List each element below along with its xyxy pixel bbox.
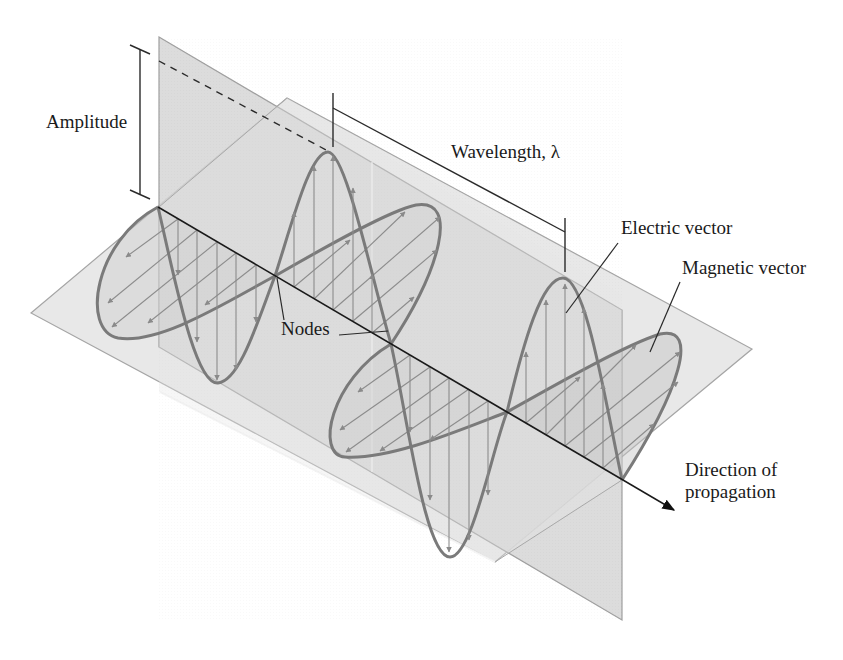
nodes-label: Nodes: [281, 318, 330, 340]
electric-vector-label: Electric vector: [621, 217, 732, 239]
direction-label-line-2: propagation: [685, 481, 777, 503]
amplitude-label: Amplitude: [46, 111, 127, 133]
magnetic-vector-label: Magnetic vector: [682, 257, 806, 279]
direction-of-propagation-label: Direction of propagation: [685, 459, 777, 503]
wavelength-label: Wavelength, λ: [451, 141, 560, 163]
direction-label-line-1: Direction of: [685, 459, 777, 481]
electromagnetic-wave-diagram: [0, 0, 843, 660]
